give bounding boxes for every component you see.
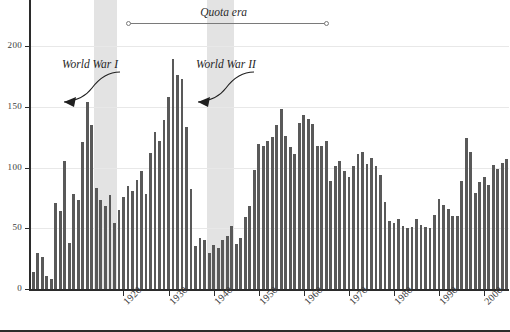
bar <box>221 240 224 289</box>
bar <box>352 166 355 289</box>
y-axis-tick-mark <box>25 228 29 229</box>
bar <box>253 170 256 289</box>
bar <box>438 199 441 289</box>
bar <box>32 272 35 289</box>
bar <box>483 177 486 289</box>
bar <box>131 191 134 289</box>
bar <box>203 240 206 289</box>
bar <box>420 225 423 289</box>
bar <box>271 137 274 289</box>
bar <box>492 165 495 289</box>
bar <box>163 120 166 289</box>
y-axis-tick-label: 150 <box>0 101 22 111</box>
bar <box>104 206 107 289</box>
bar <box>496 169 499 289</box>
bar <box>465 138 468 289</box>
bar <box>118 210 121 289</box>
bar <box>95 188 98 289</box>
bar <box>338 161 341 289</box>
y-axis-line <box>29 0 31 289</box>
bar <box>266 141 269 289</box>
bar <box>379 175 382 289</box>
quota-era-bracket-cap-left <box>126 21 131 26</box>
world-war-1-arrow-icon <box>36 66 126 116</box>
bar <box>212 245 215 289</box>
bar <box>478 182 481 289</box>
bar <box>298 123 301 289</box>
quota-era-bracket-line <box>128 23 326 24</box>
bar <box>302 115 305 289</box>
bar <box>402 226 405 289</box>
bar <box>140 171 143 289</box>
bar <box>469 152 472 289</box>
y-axis-tick-mark <box>25 168 29 169</box>
bar <box>442 205 445 289</box>
bar <box>63 161 66 289</box>
bar <box>334 166 337 289</box>
bar <box>366 164 369 289</box>
world-war-2-arrow-icon <box>170 66 260 116</box>
bar <box>262 146 265 289</box>
bar <box>217 248 220 289</box>
bar <box>199 238 202 289</box>
plot-area: 050100150200 192019301940195019601970198… <box>0 0 510 332</box>
bar <box>41 257 44 289</box>
bar <box>284 136 287 289</box>
bar <box>325 141 328 289</box>
y-axis-tick-mark <box>25 289 29 290</box>
bar <box>167 97 170 289</box>
quota-era-bracket-cap-right <box>324 21 329 26</box>
bar <box>90 125 93 289</box>
bar <box>320 146 323 289</box>
bar <box>68 243 71 289</box>
bar <box>406 228 409 289</box>
y-axis-tick-label: 200 <box>0 40 22 50</box>
bar <box>99 200 102 289</box>
bar <box>122 197 125 289</box>
bar <box>208 253 211 289</box>
bar <box>239 238 242 289</box>
bar <box>136 180 139 289</box>
bar <box>235 244 238 289</box>
bar <box>158 141 161 289</box>
bar <box>433 215 436 289</box>
bar <box>244 217 247 289</box>
bar <box>226 236 229 289</box>
bar <box>505 159 508 289</box>
y-axis-tick-mark <box>25 46 29 47</box>
bar <box>397 219 400 289</box>
bar <box>474 193 477 289</box>
bar <box>145 194 148 289</box>
bar <box>154 132 157 289</box>
bar <box>329 181 332 289</box>
bar <box>50 279 53 289</box>
bar <box>280 109 283 289</box>
bar <box>370 158 373 289</box>
bar <box>185 127 188 289</box>
bar <box>54 203 57 289</box>
y-axis-tick-label: 50 <box>0 222 22 232</box>
bar <box>36 253 39 289</box>
bar <box>456 216 459 289</box>
bar <box>248 206 251 289</box>
bar <box>190 189 193 289</box>
bar <box>109 195 112 289</box>
bar <box>45 276 48 289</box>
bar <box>77 200 80 289</box>
bar <box>460 181 463 289</box>
bar <box>81 142 84 289</box>
bar <box>311 124 314 289</box>
y-axis-tick-label: 0 <box>0 283 22 293</box>
gridline <box>31 46 509 47</box>
bar <box>501 163 504 289</box>
bar <box>86 102 89 289</box>
y-axis-tick-label: 100 <box>0 162 22 172</box>
bar <box>289 147 292 289</box>
bar <box>361 152 364 289</box>
bar <box>357 154 360 289</box>
bar <box>388 221 391 289</box>
bar <box>348 177 351 289</box>
bar <box>415 219 418 289</box>
bar <box>293 154 296 289</box>
bar <box>451 216 454 289</box>
